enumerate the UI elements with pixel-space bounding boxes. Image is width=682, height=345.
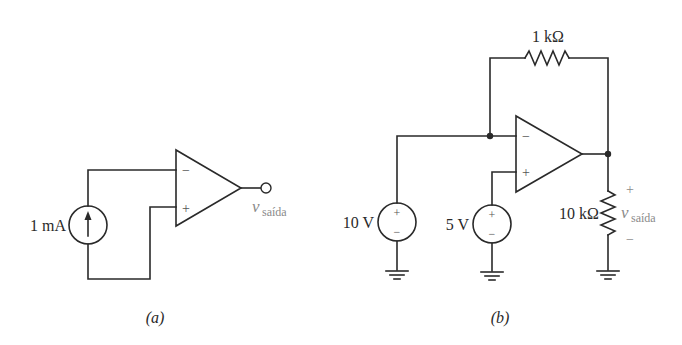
- source-10v-minus: −: [394, 225, 401, 239]
- wire-b-10v: [397, 136, 516, 203]
- wire-a-minus: [88, 170, 176, 206]
- source-5v-minus: −: [489, 227, 496, 241]
- output-terminal-icon: [261, 183, 271, 193]
- output-label-v: v: [621, 203, 629, 222]
- circuit-diagram: 1 mA − + v saída (a) 1 kΩ − +: [0, 0, 682, 345]
- load-resistor-label: 10 kΩ: [559, 205, 599, 222]
- current-source-icon: [69, 206, 107, 244]
- caption-b: (b): [491, 309, 510, 327]
- current-source-label: 1 mA: [30, 217, 66, 234]
- ground-icon: [597, 271, 619, 279]
- wire-a-plus: [88, 207, 176, 279]
- output-label-sub: saída: [262, 205, 287, 219]
- caption-a: (a): [146, 309, 165, 327]
- output-plus-sign: +: [626, 182, 634, 197]
- opamp-plus-sign: +: [522, 165, 530, 180]
- wire-b-feedback: [490, 58, 525, 136]
- source-10v-label: 10 V: [343, 214, 375, 231]
- opamp-plus-sign: +: [182, 201, 190, 216]
- junction-node-icon: [487, 133, 493, 139]
- opamp-minus-sign: −: [522, 129, 530, 144]
- load-resistor-icon: [601, 191, 615, 235]
- ground-icon: [481, 272, 503, 280]
- opamp-icon: [516, 116, 582, 192]
- panel-a: 1 mA − + v saída (a): [30, 150, 287, 327]
- wire-b-feedback-right: [569, 58, 608, 154]
- wire-b-5v: [492, 172, 516, 205]
- ground-icon: [386, 271, 408, 279]
- source-5v-plus: +: [489, 208, 496, 222]
- source-10v-plus: +: [394, 206, 401, 220]
- output-label-v: v: [252, 197, 260, 216]
- panel-b: 1 kΩ − + + − 10 V + − 5 V: [343, 28, 657, 327]
- output-minus-sign: −: [626, 232, 634, 247]
- opamp-minus-sign: −: [182, 163, 190, 178]
- feedback-resistor-icon: [525, 51, 569, 65]
- output-label-sub: saída: [631, 211, 656, 225]
- source-5v-label: 5 V: [446, 216, 470, 233]
- feedback-resistor-label: 1 kΩ: [532, 28, 564, 45]
